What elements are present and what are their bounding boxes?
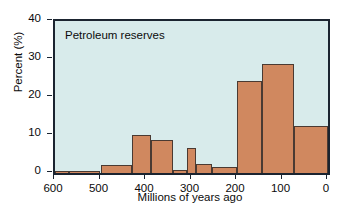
x-tick-mark [53, 174, 54, 179]
bar [55, 171, 69, 173]
bar [294, 126, 328, 174]
x-tick-mark [144, 174, 145, 179]
y-tick-mark [47, 171, 52, 172]
x-tick-mark [326, 174, 327, 179]
x-tick-mark [281, 174, 282, 179]
plot-area: Petroleum reserves [53, 19, 330, 175]
bar [237, 81, 262, 173]
bar [69, 171, 101, 173]
x-tick-mark [190, 174, 191, 179]
x-tick-mark [235, 174, 236, 179]
y-tick-mark [47, 57, 52, 58]
bar [187, 148, 196, 173]
y-tick-label: 0 [13, 165, 41, 177]
bar [173, 170, 187, 173]
y-tick-label: 40 [13, 13, 41, 25]
y-tick-mark [47, 19, 52, 20]
bar-series [55, 21, 328, 173]
y-tick-mark [47, 95, 52, 96]
bar [212, 167, 237, 173]
bar [132, 135, 150, 173]
y-tick-label: 20 [13, 89, 41, 101]
y-tick-label: 10 [13, 127, 41, 139]
x-tick-mark [99, 174, 100, 179]
bar [262, 64, 294, 173]
bar [101, 165, 133, 173]
petroleum-reserves-chart: Percent (%) 010203040 Petroleum reserves… [0, 0, 345, 217]
bar [151, 140, 174, 173]
x-axis-label: Millions of years ago [53, 191, 327, 203]
y-tick-mark [47, 133, 52, 134]
y-tick-label: 30 [13, 51, 41, 63]
bar [196, 164, 212, 174]
